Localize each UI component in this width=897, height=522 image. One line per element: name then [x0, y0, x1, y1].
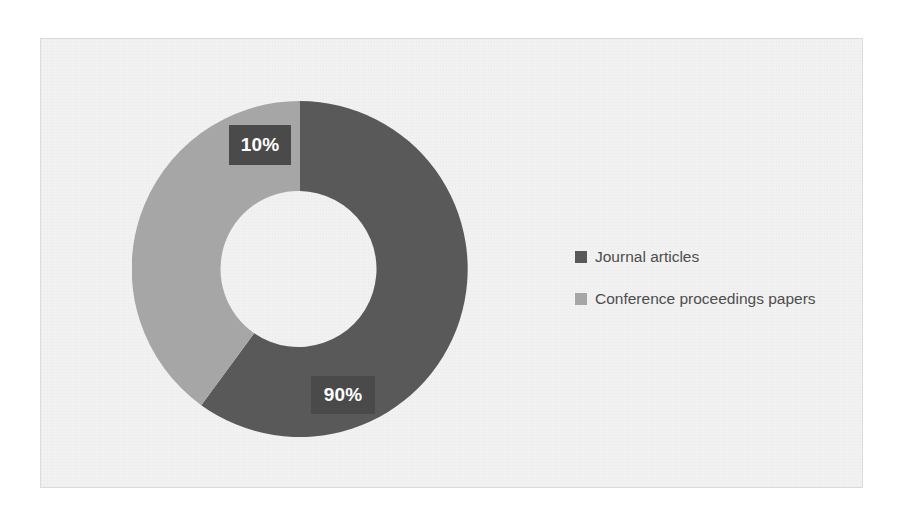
- donut-chart: [132, 101, 468, 437]
- legend-item-conference-proceedings[interactable]: Conference proceedings papers: [575, 287, 855, 311]
- chart-plot-area: 10% 90% Journal articles Conference proc…: [40, 38, 863, 488]
- donut-chart-svg: [132, 101, 468, 437]
- legend-label-journal-articles: Journal articles: [595, 248, 699, 266]
- legend-swatch-journal-articles: [575, 251, 587, 263]
- chart-legend: Journal articles Conference proceedings …: [575, 245, 855, 329]
- legend-label-conference-proceedings: Conference proceedings papers: [595, 290, 816, 308]
- legend-swatch-conference-proceedings: [575, 293, 587, 305]
- figure-canvas: 10% 90% Journal articles Conference proc…: [0, 0, 897, 522]
- legend-item-journal-articles[interactable]: Journal articles: [575, 245, 855, 269]
- data-label-major-slice: 90%: [311, 376, 375, 414]
- data-label-minor-slice: 10%: [229, 125, 291, 165]
